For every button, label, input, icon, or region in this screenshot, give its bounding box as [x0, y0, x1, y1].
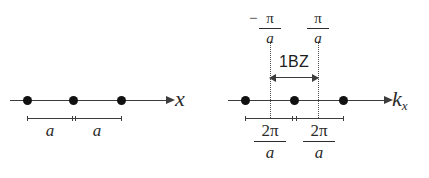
brillouin-zone-label: 1BZ — [268, 54, 320, 70]
reciprocal-spacing-bar — [245, 118, 343, 119]
reciprocal-lattice-point — [290, 96, 299, 105]
reciprocal-spacing-1-denominator: a — [253, 143, 287, 161]
kx-axis-label: kx — [392, 88, 408, 112]
x-axis-label-text: x — [175, 86, 185, 111]
arrow-cap-right — [312, 74, 319, 82]
spacing-bar-left — [27, 118, 121, 119]
reciprocal-tick-start — [245, 116, 246, 121]
x-axis-line — [10, 100, 168, 101]
reciprocal-tick-mid — [292, 116, 293, 121]
brillouin-zone-label-text: 1BZ — [279, 53, 309, 70]
arrow-cap-left — [269, 74, 276, 82]
bz-boundary-label-left: − π a — [258, 11, 282, 46]
lattice-point — [117, 96, 126, 105]
reciprocal-tick-end — [343, 116, 344, 121]
reciprocal-spacing-label-1: 2π a — [253, 122, 287, 161]
spacing-label-a-1-text: a — [46, 121, 55, 140]
kx-axis-label-subscript: x — [402, 98, 408, 113]
lattice-point — [69, 96, 78, 105]
fraction-bar — [307, 28, 329, 29]
spacing-tick-mid — [72, 116, 73, 121]
minus-sign: − — [249, 11, 257, 26]
kx-axis-label-text: k — [392, 86, 402, 111]
spacing-label-a-2: a — [82, 122, 112, 139]
fraction-bar — [303, 141, 335, 142]
spacing-label-a-1: a — [35, 122, 65, 139]
fraction-bar — [259, 28, 281, 29]
spacing-tick-end — [121, 116, 122, 121]
bz-right-numerator: π — [306, 11, 330, 27]
reciprocal-spacing-label-2: 2π a — [302, 122, 336, 161]
bz-right-denominator: a — [306, 30, 330, 46]
bz-left-denominator: a — [258, 30, 282, 46]
spacing-tick-mid — [75, 116, 76, 121]
reciprocal-spacing-2-denominator: a — [302, 143, 336, 161]
x-axis-arrowhead — [166, 96, 175, 104]
reciprocal-spacing-1-numerator: 2π — [253, 122, 287, 140]
brillouin-zone-span-arrow — [270, 77, 318, 78]
bz-boundary-label-right: π a — [306, 11, 330, 46]
fraction-bar — [254, 141, 286, 142]
spacing-label-a-2-text: a — [93, 121, 102, 140]
lattice-reciprocal-lattice-figure: x a a kx − π — [0, 0, 429, 178]
reciprocal-tick-mid — [296, 116, 297, 121]
reciprocal-lattice-point — [339, 96, 348, 105]
spacing-tick-start — [27, 116, 28, 121]
x-axis-label: x — [175, 88, 185, 110]
reciprocal-spacing-2-numerator: 2π — [302, 122, 336, 140]
kx-axis-line — [228, 100, 386, 101]
bz-left-numerator: π — [258, 11, 282, 27]
reciprocal-lattice-point — [241, 96, 250, 105]
lattice-point — [23, 96, 32, 105]
